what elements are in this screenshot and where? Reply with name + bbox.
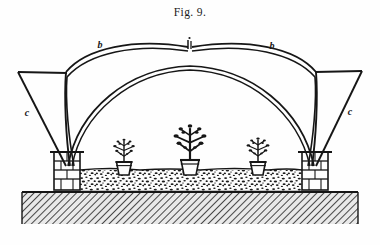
- plant-pot-2: [173, 124, 206, 175]
- label-c-left: c: [25, 107, 30, 118]
- label-b-left: b: [98, 39, 103, 50]
- strut-right: [315, 71, 362, 166]
- engraving-canvas: b b c c: [0, 0, 380, 245]
- center-finial: [188, 37, 191, 49]
- label-c-right: c: [348, 106, 353, 117]
- pier-right: [298, 152, 332, 190]
- outer-arch-rib-left: [65, 44, 188, 166]
- figure-plate: Fig. 9.: [0, 0, 380, 245]
- pier-left: [50, 152, 84, 190]
- strut-left: [18, 72, 67, 166]
- ground-band: [22, 192, 358, 224]
- label-b-right: b: [270, 40, 275, 51]
- outer-arch-rib-right: [192, 44, 317, 166]
